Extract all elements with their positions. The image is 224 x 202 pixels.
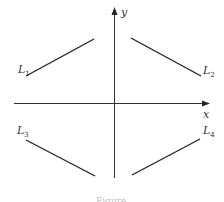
line-l4-label: L4 bbox=[202, 124, 215, 139]
line-l2-label: L2 bbox=[202, 64, 215, 79]
x-axis-label: x bbox=[203, 108, 210, 121]
x-axis-arrow-icon bbox=[202, 101, 210, 107]
y-axis-label: y bbox=[120, 6, 128, 19]
line-l4 bbox=[132, 139, 200, 175]
line-l1 bbox=[26, 39, 94, 76]
line-l2 bbox=[131, 38, 201, 76]
line-l3-label: L3 bbox=[16, 124, 29, 139]
line-l3 bbox=[26, 140, 95, 176]
line-l1-label: L1 bbox=[17, 63, 30, 78]
coordinate-diagram: y x L1 L2 L3 L4 Figure bbox=[0, 0, 224, 202]
figure-caption: Figure bbox=[96, 196, 126, 202]
y-axis-arrow-icon bbox=[112, 7, 118, 15]
